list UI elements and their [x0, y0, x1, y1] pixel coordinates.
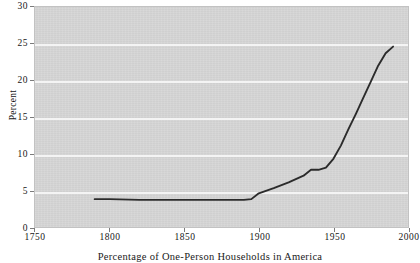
y-tick-label-25: 25: [4, 38, 28, 48]
y-tick-label-5: 5: [4, 186, 28, 196]
x-tick-mark-2000: [409, 228, 410, 232]
chart-figure: Percent 30 25 20 15 10 5 0 1750 1800 185…: [0, 0, 420, 263]
x-tick-mark-1800: [109, 228, 110, 232]
plot-area: [34, 6, 409, 228]
data-series-line: [35, 7, 408, 227]
x-tick-label-1750: 1750: [15, 232, 55, 243]
x-tick-label-1850: 1850: [165, 232, 205, 243]
y-tick-label-0: 0: [4, 223, 28, 233]
x-tick-mark-1750: [34, 228, 35, 232]
y-tick-label-10: 10: [4, 149, 28, 159]
x-tick-label-1900: 1900: [240, 232, 280, 243]
x-tick-label-1950: 1950: [315, 232, 355, 243]
x-tick-mark-1950: [334, 228, 335, 232]
x-tick-label-2000: 2000: [389, 232, 420, 243]
x-tick-mark-1850: [184, 228, 185, 232]
y-tick-label-30: 30: [4, 1, 28, 11]
x-tick-label-1800: 1800: [90, 232, 130, 243]
figure-caption: Percentage of One-Person Households in A…: [0, 251, 420, 262]
y-tick-label-20: 20: [4, 75, 28, 85]
y-axis-label: Percent: [8, 75, 18, 135]
x-tick-mark-1900: [259, 228, 260, 232]
y-tick-label-15: 15: [4, 112, 28, 122]
y-tick-mark-0: [30, 228, 34, 229]
